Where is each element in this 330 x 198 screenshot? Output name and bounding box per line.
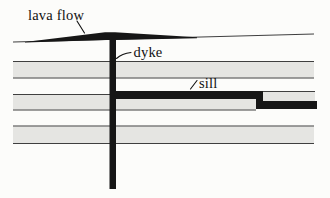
rock-layer-2-fill-above-sill-right — [263, 92, 315, 101]
sill-label: sill — [199, 75, 218, 91]
rock-layer-2-fill-below-sill — [116, 99, 256, 110]
dyke-label: dyke — [134, 44, 163, 60]
rock-layer-2-fill-left-of-dyke — [13, 95, 110, 110]
rock-layer-3-fill — [13, 127, 314, 144]
dyke-shape — [110, 33, 117, 189]
geology-cross-section-diagram: lava flow dyke sill — [0, 0, 330, 198]
lava-flow-label: lava flow — [28, 7, 84, 23]
geology-diagram-stage: lava flow dyke sill — [0, 0, 330, 198]
rock-layer-1-fill — [13, 62, 314, 78]
